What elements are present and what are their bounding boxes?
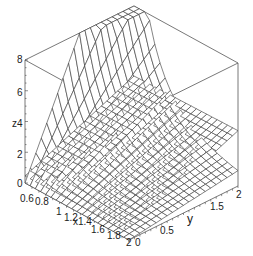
y-tick-0.5: 0.5 xyxy=(160,226,174,236)
y-axis-label: y xyxy=(187,214,193,224)
surface-mesh xyxy=(25,6,238,240)
z-tick-8: 8 xyxy=(17,55,23,65)
x-tick-0.6: 0.6 xyxy=(20,194,34,204)
z-tick-0: 0 xyxy=(17,179,23,189)
y-tick-1.5: 1.5 xyxy=(210,202,224,212)
z-tick-6: 6 xyxy=(17,88,23,98)
z-tick-2: 2 xyxy=(17,150,23,160)
y-tick-0: 0 xyxy=(135,238,141,248)
x-tick-1.6: 1.6 xyxy=(91,225,105,235)
surface-plot xyxy=(0,0,253,256)
x-tick-1: 1 xyxy=(56,207,62,217)
x-axis-label: x1.4 xyxy=(73,217,92,227)
x-tick-1.8: 1.8 xyxy=(107,231,121,241)
x-tick-2: 2 xyxy=(126,238,132,248)
x-tick-0.8: 0.8 xyxy=(35,197,49,207)
y-tick-2: 2 xyxy=(236,190,242,200)
z-axis-label-4: z4 xyxy=(12,119,23,129)
